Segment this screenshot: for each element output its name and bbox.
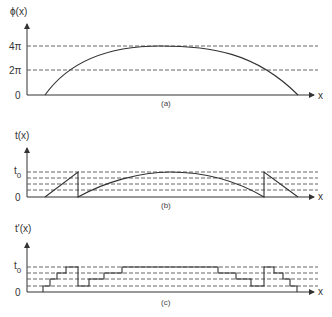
tick-t0: t0 xyxy=(14,165,22,180)
panel-c: t'(x) x t0 0 (c) xyxy=(14,223,323,307)
tick-zero: 0 xyxy=(15,287,21,298)
diagram-canvas: ϕ(x) x 4π 2π 0 (a) t(x) x t0 0 (b) t'(x)… xyxy=(0,0,332,317)
tick-zero: 0 xyxy=(15,192,21,203)
x-axis-label: x xyxy=(318,191,323,202)
y-axis-label-t: t(x) xyxy=(15,130,29,141)
wrapped-time-curve xyxy=(45,172,298,197)
y-axis-label-phi: ϕ(x) xyxy=(10,6,27,17)
phase-curve xyxy=(45,46,298,95)
tick-t0: t0 xyxy=(14,260,22,275)
caption-b: (b) xyxy=(161,201,171,210)
x-axis-label: x xyxy=(318,90,323,101)
tick-4pi: 4π xyxy=(9,41,22,52)
caption-c: (c) xyxy=(161,298,171,307)
caption-a: (a) xyxy=(161,99,171,108)
x-axis-label: x xyxy=(318,286,323,297)
y-axis-label-t-prime: t'(x) xyxy=(15,223,31,234)
panel-a: ϕ(x) x 4π 2π 0 (a) xyxy=(9,6,323,108)
panel-b: t(x) x t0 0 (b) xyxy=(14,130,323,210)
tick-2pi: 2π xyxy=(9,65,22,76)
tick-zero: 0 xyxy=(15,90,21,101)
quantized-time-steps xyxy=(43,267,297,292)
